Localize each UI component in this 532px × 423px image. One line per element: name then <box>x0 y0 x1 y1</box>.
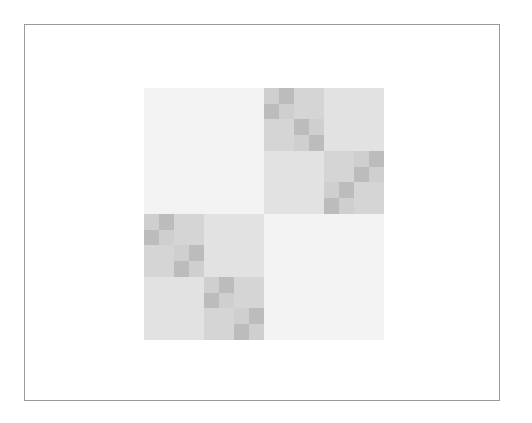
matrix-block-level4-light <box>174 245 189 261</box>
matrix-block-level4-dark <box>159 214 174 230</box>
matrix-block-level4-light <box>264 88 279 104</box>
matrix-block-level2 <box>324 88 384 151</box>
matrix-block-level4-dark <box>144 230 159 245</box>
matrix-block-level3 <box>294 88 324 119</box>
matrix-block-level1 <box>264 214 384 340</box>
matrix-block-level4-light <box>189 261 204 277</box>
matrix-block-level3 <box>324 151 354 182</box>
matrix-block-level4-dark <box>189 245 204 261</box>
matrix-block-level4-dark <box>204 293 219 308</box>
matrix-block-level4-light <box>204 277 219 293</box>
matrix-block-level4-dark <box>339 182 354 198</box>
matrix-block-level4-light <box>144 214 159 230</box>
matrix-block-level3 <box>234 277 264 308</box>
matrix-block-level4-light <box>159 230 174 245</box>
matrix-block-level4-dark <box>249 308 264 324</box>
block-matrix <box>144 88 384 340</box>
matrix-block-level4-light <box>369 167 384 182</box>
matrix-block-level4-light <box>294 135 309 151</box>
matrix-block-level1 <box>144 88 264 214</box>
matrix-block-level3 <box>354 182 384 214</box>
matrix-block-level4-dark <box>309 135 324 151</box>
matrix-block-level2 <box>264 151 324 214</box>
matrix-block-level4-dark <box>219 277 234 293</box>
matrix-block-level4-light <box>219 293 234 308</box>
matrix-block-level4-dark <box>369 151 384 167</box>
matrix-block-level4-light <box>354 151 369 167</box>
matrix-block-level4-light <box>234 308 249 324</box>
matrix-block-level3 <box>204 308 234 340</box>
matrix-block-level4-dark <box>279 88 294 104</box>
matrix-block-level4-light <box>339 198 354 214</box>
matrix-block-level3 <box>144 245 174 277</box>
matrix-block-level4-light <box>309 119 324 135</box>
matrix-block-level4-light <box>249 324 264 340</box>
matrix-block-level4-light <box>324 182 339 198</box>
matrix-block-level3 <box>264 119 294 151</box>
matrix-block-level2 <box>204 214 264 277</box>
matrix-block-level4-dark <box>174 261 189 277</box>
matrix-block-level4-light <box>279 104 294 119</box>
matrix-block-level4-dark <box>234 324 249 340</box>
matrix-block-level4-dark <box>294 119 309 135</box>
matrix-block-level4-dark <box>264 104 279 119</box>
matrix-block-level2 <box>144 277 204 340</box>
matrix-block-level4-dark <box>324 198 339 214</box>
matrix-block-level4-dark <box>354 167 369 182</box>
matrix-block-level3 <box>174 214 204 245</box>
